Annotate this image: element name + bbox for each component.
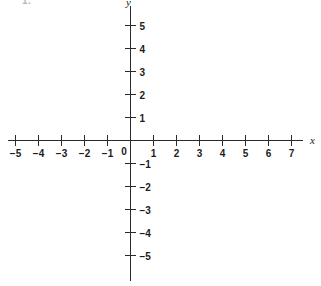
y-tick-label-3: 3 — [140, 67, 146, 78]
x-tick-label-3: 3 — [197, 148, 203, 159]
x-tick-label-5: 5 — [243, 148, 249, 159]
y-tick-label--2: −2 — [140, 182, 152, 193]
x-tick-label-2: 2 — [174, 148, 180, 159]
y-tick-label-4: 4 — [140, 44, 146, 55]
x-tick-label--1: −1 — [102, 148, 114, 159]
x-tick-label--2: −2 — [79, 148, 91, 159]
y-tick-label-2: 2 — [140, 90, 146, 101]
y-tick-label-5: 5 — [140, 21, 146, 32]
x-tick-label-7: 7 — [289, 148, 295, 159]
y-tick-label--3: −3 — [140, 205, 152, 216]
x-tick-label-4: 4 — [220, 148, 226, 159]
x-tick-label--3: −3 — [56, 148, 68, 159]
x-axis-ticks: −5−4−3−2−11234567 — [10, 135, 295, 159]
coordinate-plane-figure: 1. −5−4−3−2−11234567 −5−4−3−2−112345 0 x… — [0, 0, 321, 286]
origin-label: 0 — [121, 146, 127, 157]
y-tick-label--1: −1 — [140, 159, 152, 170]
x-tick-label--4: −4 — [33, 148, 45, 159]
y-axis-name-label: y — [125, 0, 131, 8]
x-tick-label--5: −5 — [10, 148, 22, 159]
x-tick-label-1: 1 — [151, 148, 157, 159]
x-tick-label-6: 6 — [266, 148, 272, 159]
y-tick-label-1: 1 — [140, 113, 146, 124]
y-tick-label--5: −5 — [140, 251, 152, 262]
y-tick-label--4: −4 — [140, 228, 152, 239]
coordinate-axes: −5−4−3−2−11234567 −5−4−3−2−112345 0 x y — [0, 0, 321, 286]
x-axis-name-label: x — [309, 134, 315, 146]
